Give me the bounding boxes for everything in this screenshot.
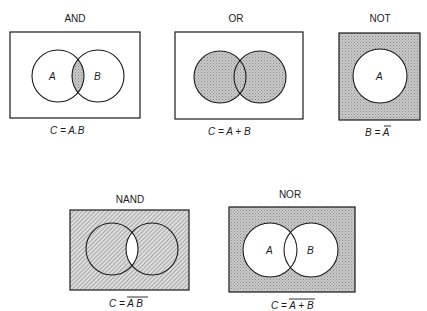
set-a-label: A — [375, 71, 383, 82]
panel-title: NOR — [279, 189, 301, 200]
equation-prefix: C = — [109, 298, 127, 309]
set-b-label: B — [307, 245, 314, 256]
panel-nand: NAND C = A B — [70, 194, 189, 309]
equation-prefix: C = — [50, 125, 68, 136]
logic-venn-diagram: AND A B C = A.B OR C = A + B NOT A B = A — [0, 0, 427, 311]
panel-title: NOT — [369, 13, 390, 24]
set-a-label: A — [265, 245, 273, 256]
equation-overbar-expr: A + B — [288, 300, 314, 311]
set-b-label: B — [94, 71, 101, 82]
equation-expr: A.B — [67, 125, 84, 136]
equation: C = A + B — [271, 300, 314, 311]
panel-not: NOT A B = A — [339, 13, 420, 138]
panel-title: OR — [229, 13, 244, 24]
panel-and: AND A B C = A.B — [10, 13, 140, 136]
set-a-label: A — [48, 71, 56, 82]
equation: B = A — [365, 127, 390, 138]
panel-nor: NOR A B C = A + B — [229, 189, 355, 311]
panel-title: AND — [64, 13, 85, 24]
equation-overbar-expr: A B — [126, 298, 143, 309]
equation: C = A.B — [50, 125, 85, 136]
equation-expr: A + B — [225, 126, 251, 137]
equation: C = A + B — [208, 126, 251, 137]
equation-prefix: C = — [271, 300, 289, 311]
equation-prefix: C = — [208, 126, 226, 137]
equation: C = A B — [109, 298, 143, 309]
equation-prefix: B = — [365, 127, 383, 138]
equation-overbar-expr: A — [382, 127, 390, 138]
panel-title: NAND — [116, 194, 144, 205]
panel-or: OR C = A + B — [175, 13, 303, 137]
